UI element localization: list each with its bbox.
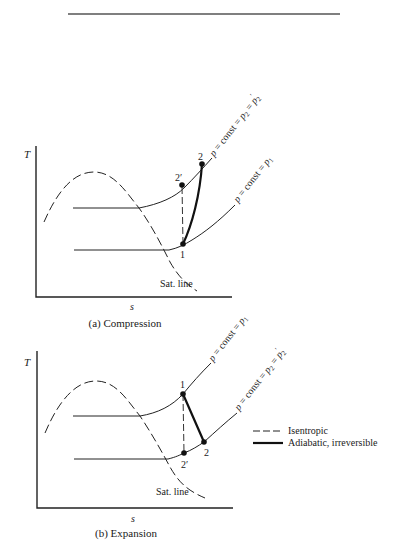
y-axis-label: T <box>24 148 31 160</box>
sat-line-label: Sat. line <box>160 278 193 289</box>
point-label-1: 1 <box>180 249 185 260</box>
state-point-2 <box>199 161 205 167</box>
isobar-label-p1: p = const = p1 <box>230 153 276 206</box>
isobar-p2 <box>73 158 212 208</box>
isobar-p1 <box>74 205 235 250</box>
legend: Isentropic Adiabatic, irreversible <box>253 425 378 448</box>
point-label-2: 2 <box>198 151 203 162</box>
isobar-label-p1: p = const = p1 <box>205 312 251 365</box>
ts-diagram-figure: T s Sat. line 1 2 2′ p = const = p2 = p2… <box>0 0 409 547</box>
isentropic-path <box>183 394 184 453</box>
irreversible-path <box>183 164 202 244</box>
point-label-1: 1 <box>180 379 185 390</box>
caption-expansion: (b) Expansion <box>95 527 158 540</box>
legend-item-isentropic: Isentropic <box>253 425 329 436</box>
caption-compression: (a) Compression <box>88 317 162 330</box>
isobar-label-p2: p = const = p2 = p2′ <box>204 90 264 160</box>
point-label-2: 2 <box>204 447 209 458</box>
point-label-2prime: 2′ <box>181 459 188 470</box>
isobar-label-const: = const = <box>235 368 270 408</box>
legend-item-irreversible: Adiabatic, irreversible <box>253 437 378 448</box>
legend-label: Isentropic <box>288 425 329 436</box>
isobar-label-const: = const = <box>210 114 245 154</box>
x-axis-label: s <box>131 513 135 524</box>
state-point-2prime <box>179 182 185 188</box>
saturation-dome <box>44 172 197 291</box>
point-label-2prime: 2′ <box>175 172 182 183</box>
isobar-label-const: = const = <box>234 160 269 200</box>
x-axis-label: s <box>130 301 134 312</box>
irreversible-path <box>183 394 204 442</box>
isobar-label-const: = const = <box>209 319 244 359</box>
isobar-label-p2: p = const = p2 = p2′ <box>229 344 289 414</box>
state-point-2prime <box>181 450 187 456</box>
y-axis-label: T <box>24 356 31 368</box>
isobar-p2 <box>74 413 237 459</box>
legend-label: Adiabatic, irreversible <box>288 437 378 448</box>
state-point-1 <box>180 391 186 397</box>
panel-compression: T s Sat. line 1 2 2′ p = const = p2 = p2… <box>24 90 276 330</box>
sat-line-label: Sat. line <box>156 486 189 497</box>
state-point-1 <box>180 241 186 247</box>
axes <box>37 351 233 508</box>
state-point-2 <box>201 439 207 445</box>
isentropic-path <box>182 185 183 244</box>
panel-expansion: T s Sat. line 1 2 2′ p = const = p1 p = … <box>24 312 289 540</box>
saturation-dome <box>45 381 205 498</box>
